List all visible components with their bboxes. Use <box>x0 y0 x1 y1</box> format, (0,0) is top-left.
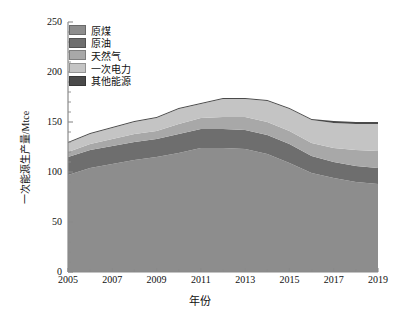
y-tick-label: 150 <box>28 116 62 127</box>
legend-swatch-icon <box>69 38 86 48</box>
x-tick-label: 2015 <box>269 274 309 285</box>
legend-swatch-icon <box>69 76 86 86</box>
legend-swatch-icon <box>69 63 86 73</box>
x-tick-label: 2009 <box>137 274 177 285</box>
x-tick-label: 2013 <box>225 274 265 285</box>
legend-item-4[interactable]: 其他能源 <box>69 74 141 87</box>
x-tick-label: 2017 <box>314 274 354 285</box>
legend-label: 其他能源 <box>91 73 131 88</box>
x-tick-label: 2011 <box>181 274 221 285</box>
y-tick-label: 50 <box>28 216 62 227</box>
chart-legend: 原煤原油天然气一次电力其他能源 <box>69 24 141 87</box>
x-tick-label: 2005 <box>48 274 88 285</box>
y-tick-label: 250 <box>28 16 62 27</box>
x-tick-label: 2007 <box>92 274 132 285</box>
legend-swatch-icon <box>69 50 86 60</box>
y-axis-title: 一次能源生产量/Mtce <box>17 88 32 228</box>
area-series-group <box>68 98 378 272</box>
legend-swatch-icon <box>69 25 86 35</box>
x-tick-label: 2019 <box>358 274 398 285</box>
x-axis-title: 年份 <box>0 292 399 308</box>
y-tick-label: 200 <box>28 66 62 77</box>
y-tick-label: 100 <box>28 166 62 177</box>
